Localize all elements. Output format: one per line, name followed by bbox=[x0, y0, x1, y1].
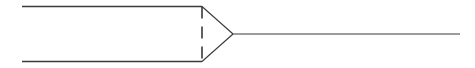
diagram-canvas bbox=[0, 0, 475, 68]
cone-lower-edge bbox=[202, 34, 233, 62]
cone-upper-edge bbox=[202, 7, 233, 35]
